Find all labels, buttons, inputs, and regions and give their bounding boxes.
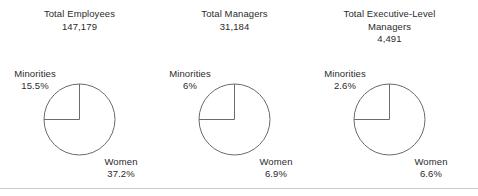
slice-label-women-name: Women [245, 156, 307, 168]
slice-label-women: Women 6.6% [400, 156, 462, 180]
panel-total-value: 4,491 [312, 33, 467, 46]
slice-label-women-value: 6.6% [400, 168, 462, 180]
panel-title-line-1: Total Employees [2, 8, 157, 21]
pie-chart-figure: Total Employees 147,179 Minorities 15.5%… [0, 0, 478, 196]
slice-label-minorities-name: Minorities [316, 68, 374, 80]
slice-label-minorities-value: 6% [161, 80, 219, 92]
panel-total-value: 31,184 [157, 21, 312, 34]
panel-total-value: 147,179 [2, 21, 157, 34]
slice-label-minorities-name: Minorities [6, 68, 64, 80]
slice-label-women-value: 37.2% [90, 168, 152, 180]
chart-panel-total-managers: Total Managers 31,184 Minorities 6% Wome… [157, 0, 312, 196]
bottom-divider [0, 188, 478, 189]
slice-label-women-value: 6.9% [245, 168, 307, 180]
slice-label-minorities-value: 2.6% [316, 80, 374, 92]
panel-title: Total Executive-Level Managers 4,491 [312, 8, 467, 46]
slice-label-minorities-value: 15.5% [6, 80, 64, 92]
panel-title-line-1: Total Executive-Level [312, 8, 467, 21]
chart-panel-total-employees: Total Employees 147,179 Minorities 15.5%… [2, 0, 157, 196]
chart-panel-total-executive-level-managers: Total Executive-Level Managers 4,491 Min… [312, 0, 467, 196]
slice-label-women: Women 37.2% [90, 156, 152, 180]
panel-title: Total Managers 31,184 [157, 8, 312, 33]
panel-title-line-1: Total Managers [157, 8, 312, 21]
pie-circle [198, 83, 271, 156]
slice-label-minorities: Minorities 2.6% [316, 68, 374, 92]
slice-label-women-name: Women [400, 156, 462, 168]
pie-circle [43, 83, 116, 156]
slice-label-women: Women 6.9% [245, 156, 307, 180]
slice-label-minorities-name: Minorities [161, 68, 219, 80]
panel-title: Total Employees 147,179 [2, 8, 157, 33]
slice-label-minorities: Minorities 15.5% [6, 68, 64, 92]
slice-label-minorities: Minorities 6% [161, 68, 219, 92]
pie-circle [353, 83, 426, 156]
slice-label-women-name: Women [90, 156, 152, 168]
panel-title-line-2: Managers [312, 21, 467, 34]
